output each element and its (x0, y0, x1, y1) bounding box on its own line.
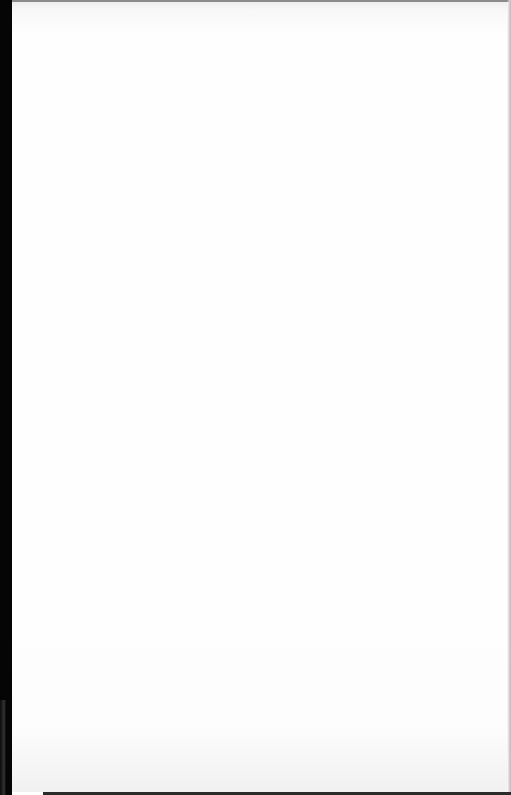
scan-left-border-fade (0, 700, 6, 795)
page-right-edge (507, 0, 511, 795)
page-top-edge (12, 0, 511, 2)
blank-page (12, 0, 507, 792)
scan-left-dark-border (0, 0, 12, 795)
scanned-page-view (0, 0, 511, 795)
